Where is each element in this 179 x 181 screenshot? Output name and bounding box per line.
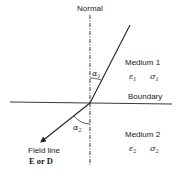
field-vector-label: E or D [29, 156, 53, 166]
medium2-label: Medium 2 [125, 130, 161, 139]
sigma1-label: σ1 [150, 72, 159, 82]
normal-label: Normal [77, 4, 103, 13]
alpha2-label: α2 [73, 123, 82, 133]
field-line-medium1 [90, 25, 130, 103]
alpha1-label: α1 [92, 69, 101, 79]
boundary-line [10, 102, 172, 104]
refraction-diagram: Normal Boundary Medium 1 Medium 2 Field … [0, 0, 179, 181]
boundary-label: Boundary [128, 92, 162, 101]
medium1-label: Medium 1 [125, 58, 161, 67]
field-line-label: Field line [28, 146, 61, 155]
epsilon1-label: ε1 [129, 72, 136, 82]
epsilon2-label: ε2 [129, 144, 136, 154]
sigma2-label: σ2 [150, 144, 159, 154]
